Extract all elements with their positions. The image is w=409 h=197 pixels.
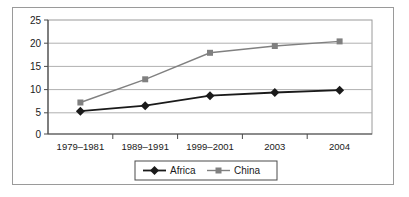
y-tick-label-10: 10 xyxy=(30,84,42,95)
y-tick-label-5: 5 xyxy=(35,107,41,118)
y-axis-labels: 0 5 10 15 20 25 xyxy=(30,15,42,140)
legend-china-label: China xyxy=(234,165,261,176)
square-marker-icon xyxy=(216,168,222,174)
line-chart: 0 5 10 15 20 25 1979–1981 1989–1991 1999… xyxy=(0,0,409,197)
legend-africa-label: Africa xyxy=(170,165,196,176)
x-tick-label-1: 1989–1991 xyxy=(121,141,169,152)
x-tick-label-0: 1979–1981 xyxy=(57,141,105,152)
y-tick-label-20: 20 xyxy=(30,38,42,49)
y-tick-label-25: 25 xyxy=(30,15,42,26)
china-point-2 xyxy=(207,50,213,56)
x-axis-labels: 1979–1981 1989–1991 1999–2001 2003 2004 xyxy=(57,141,351,152)
y-tick-label-15: 15 xyxy=(30,61,42,72)
plot-area xyxy=(44,20,372,139)
x-tick-label-3: 2003 xyxy=(264,141,285,152)
china-point-4 xyxy=(337,38,343,44)
chart-figure: 0 5 10 15 20 25 1979–1981 1989–1991 1999… xyxy=(0,0,409,197)
plot-background xyxy=(48,20,372,134)
x-axis-ticks xyxy=(113,134,307,139)
china-point-0 xyxy=(77,100,83,106)
chart-legend: Africa China xyxy=(135,161,277,180)
x-tick-label-2: 1999–2001 xyxy=(186,141,234,152)
x-tick-label-4: 2004 xyxy=(329,141,350,152)
china-point-3 xyxy=(272,43,278,49)
y-tick-label-0: 0 xyxy=(35,129,41,140)
china-point-1 xyxy=(142,76,148,82)
